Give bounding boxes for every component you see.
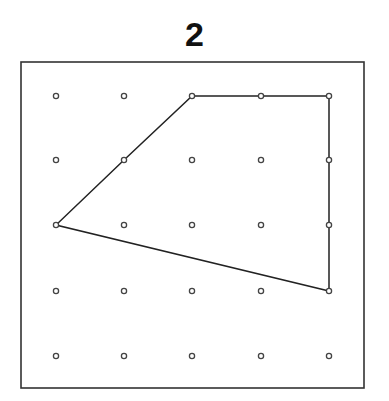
grid-dot bbox=[53, 222, 58, 227]
grid-dot bbox=[326, 222, 331, 227]
grid-dot bbox=[121, 157, 126, 162]
dot-grid bbox=[53, 93, 331, 358]
grid-dot bbox=[189, 93, 194, 98]
grid-dot bbox=[326, 288, 331, 293]
pentagon-shape bbox=[56, 96, 329, 291]
grid-dot bbox=[189, 222, 194, 227]
grid-dot bbox=[53, 353, 58, 358]
grid-dot bbox=[258, 353, 263, 358]
grid-dot bbox=[326, 93, 331, 98]
grid-dot bbox=[258, 93, 263, 98]
grid-dot bbox=[121, 222, 126, 227]
grid-dot bbox=[326, 353, 331, 358]
grid-dot bbox=[189, 157, 194, 162]
geoboard-diagram bbox=[0, 0, 389, 401]
grid-dot bbox=[258, 157, 263, 162]
grid-dot bbox=[53, 157, 58, 162]
grid-dot bbox=[121, 353, 126, 358]
grid-dot bbox=[121, 288, 126, 293]
grid-dot bbox=[258, 222, 263, 227]
grid-dot bbox=[53, 288, 58, 293]
grid-dot bbox=[189, 288, 194, 293]
grid-dot bbox=[326, 157, 331, 162]
grid-dot bbox=[121, 93, 126, 98]
grid-dot bbox=[189, 353, 194, 358]
grid-dot bbox=[258, 288, 263, 293]
grid-dot bbox=[53, 93, 58, 98]
